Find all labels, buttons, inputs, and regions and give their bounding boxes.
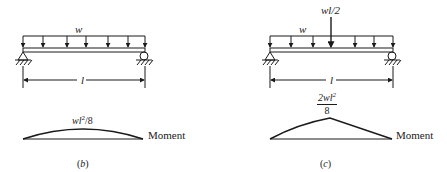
- figure-caption: (b): [77, 159, 89, 169]
- moment-peak-denominator: 8: [317, 105, 337, 116]
- moment-peak-label: wl2/8: [72, 116, 93, 126]
- pin-support-left: [15, 52, 32, 65]
- beam: [270, 48, 393, 52]
- beam: [23, 48, 145, 52]
- roller-support-right: [136, 52, 153, 65]
- numerator-base: 2wl: [318, 92, 332, 103]
- figure-caption-letter: b: [80, 158, 85, 169]
- moment-peak-numerator: 2wl2: [317, 93, 337, 105]
- distributed-load-arrows: [23, 36, 145, 47]
- figure-b-moment-diagram: [23, 129, 143, 139]
- point-load-label: wl/2: [321, 5, 340, 16]
- distributed-load-label: w: [299, 24, 306, 35]
- pin-support-left: [262, 52, 279, 65]
- numerator-exponent: 2: [332, 91, 336, 99]
- beam-diagrams: [0, 0, 447, 172]
- moment-peak-label: 2wl2 8: [317, 93, 337, 116]
- span-label: l: [328, 75, 335, 86]
- figure-caption: (c): [320, 159, 331, 169]
- figure-caption-letter: c: [323, 158, 327, 169]
- span-label: l: [79, 75, 86, 86]
- figure-c-moment-diagram: [270, 118, 392, 139]
- moment-axis-label: Moment: [148, 130, 185, 141]
- moment-peak-suffix: /8: [85, 115, 93, 126]
- distributed-load-label: w: [75, 24, 82, 35]
- roller-support-right: [384, 52, 401, 65]
- moment-axis-label: Moment: [396, 130, 433, 141]
